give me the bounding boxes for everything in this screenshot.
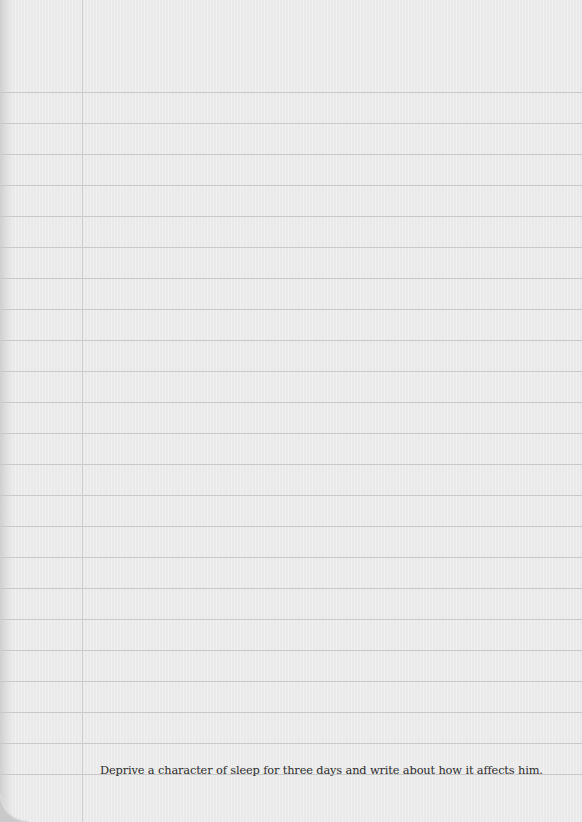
ruled-line (0, 185, 582, 186)
ruled-line (0, 464, 582, 465)
ruled-line (0, 340, 582, 341)
margin-line (82, 0, 83, 822)
ruled-line (0, 216, 582, 217)
ruled-line (0, 247, 582, 248)
ruled-line (0, 526, 582, 527)
ruled-line (0, 588, 582, 589)
ruled-line (0, 402, 582, 403)
ruled-line (0, 371, 582, 372)
ruled-line (0, 92, 582, 93)
ruled-line (0, 278, 582, 279)
ruled-line (0, 123, 582, 124)
rounded-corner (0, 794, 28, 822)
ruled-line (0, 650, 582, 651)
ruled-line (0, 557, 582, 558)
ruled-line (0, 681, 582, 682)
notebook-page: Deprive a character of sleep for three d… (0, 0, 582, 822)
ruled-line (0, 433, 582, 434)
ruled-line (0, 743, 582, 744)
ruled-line (0, 309, 582, 310)
writing-prompt: Deprive a character of sleep for three d… (100, 763, 543, 777)
ruled-line (0, 154, 582, 155)
ruled-line (0, 712, 582, 713)
ruled-line (0, 495, 582, 496)
ruled-line (0, 619, 582, 620)
